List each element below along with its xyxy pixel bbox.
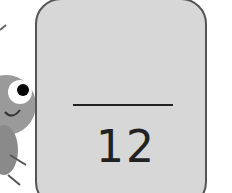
denominator: 12 — [86, 122, 166, 172]
bug-character-illustration — [0, 0, 40, 193]
fraction-bar — [73, 104, 173, 106]
